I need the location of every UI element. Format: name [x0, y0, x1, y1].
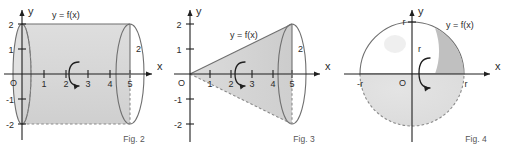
x-axis-label: x [157, 60, 163, 72]
x-axis-label: x [325, 60, 331, 72]
inner-radius-label: r [418, 44, 421, 54]
x-tick-neg-r: -r [357, 79, 363, 89]
origin-label: O [178, 78, 185, 88]
y-tick-2: 2 [176, 20, 181, 30]
x-tick-5: 5 [127, 79, 132, 89]
curve-label: y = f(x) [52, 10, 80, 20]
x-tick-2: 2 [228, 79, 233, 89]
y-axis-label: y [28, 5, 34, 17]
y-tick-neg2: -2 [174, 120, 182, 130]
y-axis-label: y [418, 5, 424, 17]
y-tick-1: 1 [176, 45, 181, 55]
figure-cone-panel: x y O 2 1 -1 -2 1 2 3 4 5 y = f(x) 2 Fig… [168, 0, 338, 155]
figure-cylinder-panel: x y O 2 1 -1 -2 1 2 3 4 5 y = f(x) 2 Fig… [0, 0, 168, 155]
x-tick-3: 3 [249, 79, 254, 89]
y-tick-neg2: -2 [6, 120, 14, 130]
y-tick-neg1: -1 [6, 95, 14, 105]
x-tick-4: 4 [107, 79, 112, 89]
x-tick-4: 4 [270, 79, 275, 89]
x-axis-label: x [495, 60, 501, 72]
y-tick-1: 1 [8, 45, 13, 55]
y-tick-r: r [403, 17, 406, 27]
figure-caption: Fig. 4 [465, 134, 487, 144]
figure-caption: Fig. 2 [123, 134, 145, 144]
radius-label: 2 [298, 44, 303, 54]
x-tick-2: 2 [63, 79, 68, 89]
x-tick-5: 5 [289, 79, 294, 89]
figure-sphere-panel: x y O r r -r r y = f(x) Fig. 4 [338, 0, 508, 155]
y-tick-neg1: -1 [174, 95, 182, 105]
figure-board: x y O 2 1 -1 -2 1 2 3 4 5 y = f(x) 2 Fig… [0, 0, 508, 155]
origin-label: O [399, 78, 406, 88]
x-tick-r: r [465, 79, 468, 89]
y-tick-2: 2 [8, 20, 13, 30]
x-tick-3: 3 [85, 79, 90, 89]
figure-caption: Fig. 3 [293, 134, 315, 144]
curve-label: y = f(x) [230, 30, 258, 40]
origin-label: O [10, 78, 17, 88]
curve-label: y = f(x) [446, 20, 474, 30]
radius-label: 2 [136, 44, 141, 54]
y-axis-label: y [196, 5, 202, 17]
x-tick-1: 1 [41, 79, 46, 89]
x-tick-1: 1 [207, 79, 212, 89]
